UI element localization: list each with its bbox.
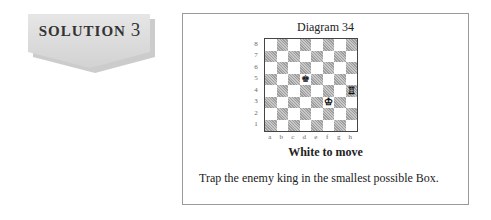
square-d6: [300, 62, 312, 74]
square-a4: [265, 85, 277, 97]
square-c6: [288, 62, 300, 74]
square-f6: [323, 62, 335, 74]
black-king-icon: ♚: [301, 74, 310, 84]
rank-label: 1: [251, 119, 261, 131]
square-c3: [288, 97, 300, 109]
file-label: g: [333, 133, 345, 141]
square-g2: [334, 108, 346, 120]
square-c7: [288, 51, 300, 63]
square-g8: [334, 39, 346, 51]
rank-label: 3: [251, 96, 261, 108]
file-label: f: [322, 133, 334, 141]
square-h5: [346, 74, 358, 86]
square-f8: [323, 39, 335, 51]
rank-label: 7: [251, 50, 261, 62]
square-a3: [265, 97, 277, 109]
badge-number: 3: [131, 19, 142, 40]
rank-label: 5: [251, 73, 261, 85]
square-f5: [323, 74, 335, 86]
square-c5: [288, 74, 300, 86]
task-text: Trap the enemy king in the smallest poss…: [199, 171, 439, 186]
rank-label: 2: [251, 107, 261, 119]
square-e5: [311, 74, 323, 86]
file-labels: abcdefgh: [264, 133, 356, 141]
square-b5: [277, 74, 289, 86]
square-h7: [346, 51, 358, 63]
square-b4: [277, 85, 289, 97]
square-h3: [346, 97, 358, 109]
diagram-box: Diagram 34 87654321 ♚♖♔ abcdefgh White t…: [182, 13, 469, 205]
square-a2: [265, 108, 277, 120]
square-f4: [323, 85, 335, 97]
file-label: e: [310, 133, 322, 141]
square-f7: [323, 51, 335, 63]
square-c2: [288, 108, 300, 120]
square-a7: [265, 51, 277, 63]
rank-label: 8: [251, 38, 261, 50]
square-h4: ♖: [346, 85, 358, 97]
square-f3: ♔: [323, 97, 335, 109]
square-c1: [288, 120, 300, 132]
badge-word: SOLUTION: [39, 23, 126, 39]
white-king-icon: ♔: [324, 97, 333, 107]
square-g5: [334, 74, 346, 86]
square-b7: [277, 51, 289, 63]
square-e1: [311, 120, 323, 132]
to-move-label: White to move: [183, 145, 468, 160]
square-g4: [334, 85, 346, 97]
square-e7: [311, 51, 323, 63]
badge-label: SOLUTION 3: [26, 19, 154, 41]
square-f1: [323, 120, 335, 132]
rank-label: 4: [251, 84, 261, 96]
square-d7: [300, 51, 312, 63]
square-a5: [265, 74, 277, 86]
file-label: a: [264, 133, 276, 141]
square-d1: [300, 120, 312, 132]
square-g7: [334, 51, 346, 63]
square-b6: [277, 62, 289, 74]
square-h6: [346, 62, 358, 74]
square-a1: [265, 120, 277, 132]
diagram-title: Diagram 34: [183, 20, 468, 35]
chess-board: ♚♖♔: [264, 38, 358, 132]
square-h1: [346, 120, 358, 132]
square-b8: [277, 39, 289, 51]
square-a8: [265, 39, 277, 51]
square-d8: [300, 39, 312, 51]
square-c8: [288, 39, 300, 51]
square-a6: [265, 62, 277, 74]
square-d2: [300, 108, 312, 120]
square-d3: [300, 97, 312, 109]
file-label: d: [299, 133, 311, 141]
square-h2: [346, 108, 358, 120]
square-c4: [288, 85, 300, 97]
file-label: b: [276, 133, 288, 141]
square-g6: [334, 62, 346, 74]
white-rook-icon: ♖: [347, 86, 356, 96]
square-e6: [311, 62, 323, 74]
square-h8: [346, 39, 358, 51]
square-b2: [277, 108, 289, 120]
file-label: h: [345, 133, 357, 141]
file-label: c: [287, 133, 299, 141]
square-g3: [334, 97, 346, 109]
square-d4: [300, 85, 312, 97]
square-e4: [311, 85, 323, 97]
square-g1: [334, 120, 346, 132]
rank-labels: 87654321: [251, 38, 261, 130]
square-b3: [277, 97, 289, 109]
square-e2: [311, 108, 323, 120]
rank-label: 6: [251, 61, 261, 73]
square-d5: ♚: [300, 74, 312, 86]
square-e3: [311, 97, 323, 109]
square-e8: [311, 39, 323, 51]
square-b1: [277, 120, 289, 132]
square-f2: [323, 108, 335, 120]
solution-badge: SOLUTION 3: [26, 12, 154, 70]
